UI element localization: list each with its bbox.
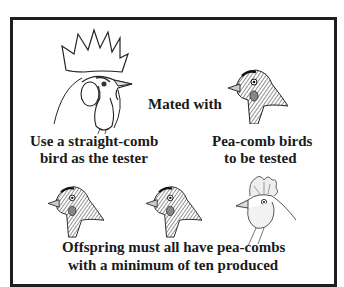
tested-line-1: Pea-comb birds: [212, 133, 312, 149]
tester-line-2: bird as the tester: [40, 150, 148, 166]
offspring-line-2: with a minimum of ten produced: [68, 257, 278, 273]
tester-line-1: Use a straight-comb: [30, 133, 158, 149]
offspring-crested-head-icon: [234, 174, 296, 246]
straight-comb-rooster-head-icon: [52, 28, 148, 134]
mated-with-label: Mated with: [148, 96, 222, 112]
tested-line-2: to be tested: [224, 150, 296, 166]
offspring-pea-comb-head-icon: [48, 182, 104, 238]
offspring-line-1: Offspring must all have pea-combs: [62, 239, 285, 255]
pea-comb-hen-head-icon: [228, 66, 288, 124]
offspring-pea-comb-head-icon: [146, 182, 202, 238]
